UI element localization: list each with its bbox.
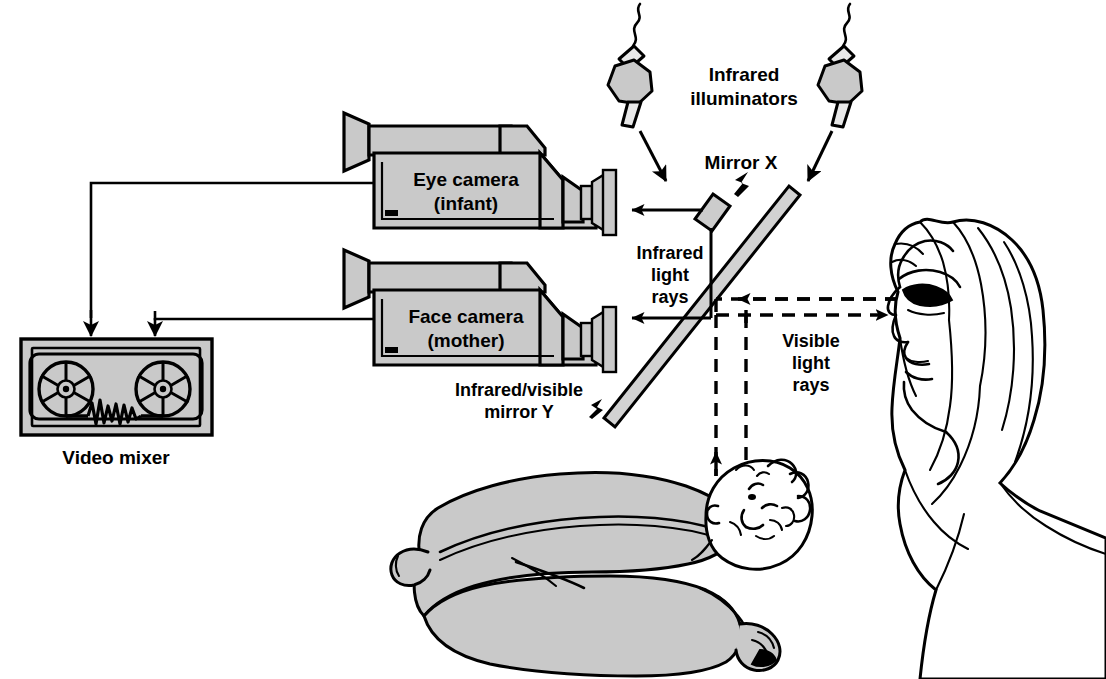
mirror-y-pointer-icon	[589, 399, 603, 419]
mirror-x-surface	[695, 194, 730, 231]
illuminator-right-stem	[832, 102, 851, 127]
illuminator-right-bulb	[818, 60, 862, 104]
eye-camera-viewfinder	[344, 113, 369, 171]
face-camera-label-line1: Face camera	[408, 306, 524, 327]
eye-camera-body-front	[540, 153, 563, 228]
signal-wires	[91, 183, 374, 336]
illuminator-right-beam-arrow	[808, 131, 832, 181]
infrared-rays-label-line3: rays	[651, 287, 688, 307]
mirror-y-label-line1: Infrared/visible	[455, 380, 583, 400]
mother-figure	[888, 219, 1106, 679]
eye-camera-label-line1: Eye camera	[413, 169, 519, 190]
infant-legs	[424, 576, 741, 676]
eye-camera-handle-taper	[500, 126, 545, 155]
infrared-illuminator-right	[808, 4, 862, 181]
infant-eye-1	[748, 494, 756, 500]
apparatus-diagram: Video mixer Eye camera (infant)	[0, 0, 1106, 679]
face-camera-viewfinder	[344, 250, 369, 308]
mirror-x-pointer-icon	[734, 172, 749, 197]
video-mixer: Video mixer	[21, 339, 212, 468]
visible-rays-label-line2: light	[792, 353, 830, 373]
illuminator-left-bulb	[608, 60, 652, 104]
infrared-rays-label-line1: Infrared	[636, 243, 703, 263]
wire-face-camera-to-mixer	[155, 318, 374, 319]
illuminator-left-cord	[633, 4, 640, 46]
visible-rays-label-line3: rays	[792, 375, 829, 395]
face-camera-lens-ring1	[581, 323, 592, 356]
face-camera-label-line2: (mother)	[427, 330, 504, 351]
face-camera-handle	[369, 263, 511, 292]
illuminator-right-cord	[843, 4, 850, 46]
face-camera-body-front	[540, 290, 563, 365]
video-mixer-label: Video mixer	[62, 447, 170, 468]
eye-camera-button	[385, 210, 398, 216]
face-camera-handle-taper	[500, 263, 545, 292]
illuminator-left-stem	[622, 102, 641, 127]
infrared-illuminators-label-line1: Infrared	[709, 64, 780, 85]
eye-camera-label-line2: (infant)	[434, 193, 498, 214]
eye-camera-lens-hood	[603, 170, 616, 235]
eye-camera: Eye camera (infant)	[344, 113, 616, 235]
illuminator-left-beam-arrow	[640, 131, 666, 181]
visible-rays-label-line1: Visible	[782, 331, 840, 351]
infant-figure	[391, 460, 812, 676]
eye-camera-handle	[369, 126, 511, 155]
infrared-rays-label-line2: light	[651, 265, 689, 285]
infrared-illuminators-label-line2: illuminators	[690, 88, 798, 109]
mirror-y-label-line2: mirror Y	[484, 402, 554, 422]
infrared-illuminator-left	[608, 4, 666, 181]
mirror-x-label: Mirror X	[705, 152, 778, 173]
face-camera: Face camera (mother)	[344, 250, 616, 372]
wire-eye-camera-to-mixer	[91, 183, 374, 318]
eye-camera-lens-ring1	[581, 186, 592, 219]
face-camera-lens-hood	[603, 307, 616, 372]
figure-canvas: Video mixer Eye camera (infant)	[0, 0, 1106, 679]
face-camera-button	[385, 347, 398, 353]
